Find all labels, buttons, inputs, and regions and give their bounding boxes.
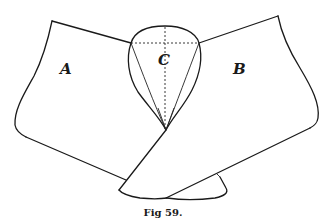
lower-fold-bottom-curve	[119, 190, 167, 199]
piece-a-left-edge	[15, 21, 52, 137]
lower-fold-tail-tick	[216, 173, 220, 177]
lower-fold-tail-curve	[167, 177, 227, 200]
piece-c	[128, 26, 200, 130]
label-a: A	[58, 60, 72, 78]
figure-diagram: A C B Fig 59.	[0, 0, 326, 224]
figure-caption: Fig 59.	[144, 207, 183, 218]
piece-b-right-edge	[278, 16, 318, 128]
lower-fold-diagonal	[119, 130, 166, 190]
piece-c-outline	[128, 26, 200, 130]
label-c: C	[158, 51, 170, 69]
piece-a-bottom-edge	[26, 137, 126, 180]
lower-fold	[119, 130, 227, 200]
piece-b-top-edge	[199, 16, 278, 43]
label-b: B	[232, 60, 246, 78]
piece-a-top-edge	[52, 21, 131, 43]
piece-b-bottom-edge	[166, 128, 310, 198]
piece-a	[15, 21, 131, 180]
